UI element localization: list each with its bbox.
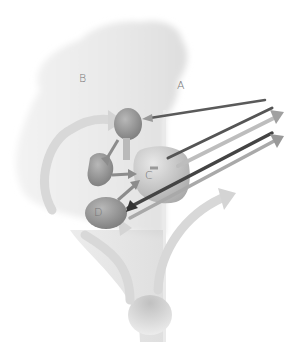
label-B: B — [79, 72, 86, 85]
label-D: D — [94, 206, 102, 219]
node-C — [133, 146, 189, 203]
base-dome — [128, 295, 172, 335]
node-top — [114, 108, 142, 140]
label-C: C — [145, 169, 153, 182]
anatomical-diagram: B A C D — [0, 0, 296, 342]
label-A: A — [177, 79, 185, 92]
node-D — [85, 197, 127, 229]
node-top-stalk — [123, 138, 130, 160]
